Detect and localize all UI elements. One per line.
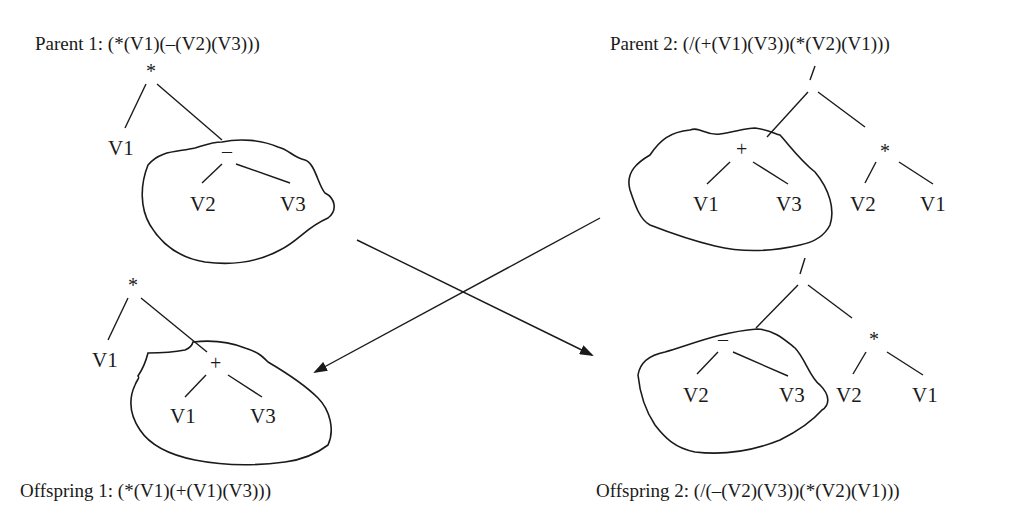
parent2-edge [865, 162, 876, 183]
offspring1-tree: * V1 + V1 V3 Offspring 1: (*(V1)(+(V1)(V… [20, 274, 331, 502]
parent2-edge [753, 162, 788, 184]
parent1-subtree-op: – [221, 140, 233, 162]
offspring2-leaf-v2-right: V2 [836, 383, 862, 407]
parent1-edge [202, 164, 222, 183]
parent2-subtree-blob [629, 128, 832, 250]
parent2-leaf-v3: V3 [776, 192, 802, 216]
parent2-edge [767, 92, 808, 137]
offspring1-subtree-op: + [210, 352, 221, 374]
parent1-caption: Parent 1: (*(V1)(–(V2)(V3))) [35, 33, 260, 55]
offspring2-root-node [800, 258, 805, 274]
parent1-root-node: * [146, 60, 156, 82]
parent1-tree: Parent 1: (*(V1)(–(V2)(V3))) * V1 – V2 V… [35, 33, 334, 264]
offspring1-leaf-v3: V3 [250, 404, 276, 428]
parent2-subtree-op: + [736, 138, 747, 160]
offspring2-edge [733, 352, 788, 376]
offspring2-leaf-v1: V1 [912, 383, 938, 407]
parent2-leaf-v1-right: V1 [920, 192, 946, 216]
parent2-leaf-v2: V2 [850, 192, 876, 216]
offspring1-edge [228, 375, 262, 397]
crossover-diagram: Parent 1: (*(V1)(–(V2)(V3))) * V1 – V2 V… [0, 0, 1025, 527]
offspring1-root-node: * [128, 274, 138, 296]
parent1-edge [157, 84, 222, 140]
offspring1-subtree-blob [131, 341, 331, 465]
parent2-tree: Parent 2: (/(+(V1)(V3))(*(V2)(V1))) + V1… [610, 33, 946, 250]
offspring1-leaf-v1-sub: V1 [170, 404, 196, 428]
offspring2-edge [887, 352, 923, 375]
offspring1-edge [108, 298, 128, 340]
crossover-arrow-to-offspring2 [357, 240, 592, 355]
parent1-edge [236, 164, 290, 183]
offspring1-leaf-v1: V1 [92, 348, 118, 372]
offspring2-edge [808, 285, 852, 318]
offspring2-subtree-op: – [717, 328, 729, 350]
offspring2-edge [853, 352, 866, 374]
offspring1-edge [185, 375, 206, 397]
offspring2-caption: Offspring 2: (/(–(V2)(V3))(*(V2)(V1))) [596, 480, 900, 502]
parent1-leaf-v2: V2 [190, 192, 216, 216]
parent2-edge [707, 162, 730, 184]
offspring2-right-op: * [869, 328, 879, 350]
parent2-caption: Parent 2: (/(+(V1)(V3))(*(V2)(V1))) [610, 33, 890, 55]
offspring1-edge [141, 298, 207, 352]
offspring1-caption: Offspring 1: (*(V1)(+(V1)(V3))) [20, 480, 271, 502]
offspring2-edge [756, 285, 798, 328]
parent2-root-node [810, 66, 815, 80]
offspring2-edge [697, 352, 718, 374]
parent2-edge [818, 92, 865, 127]
parent1-edge [125, 84, 146, 128]
parent2-leaf-v1: V1 [693, 192, 719, 216]
offspring2-leaf-v3: V3 [779, 383, 805, 407]
offspring2-tree: – V2 V3 * V2 V1 Offspring 2: (/(–(V2)(V3… [596, 258, 938, 502]
parent1-leaf-v3: V3 [280, 192, 306, 216]
parent1-leaf-v1: V1 [108, 136, 134, 160]
parent2-right-op: * [880, 140, 890, 162]
offspring2-leaf-v2: V2 [683, 383, 709, 407]
parent2-edge [899, 162, 933, 184]
